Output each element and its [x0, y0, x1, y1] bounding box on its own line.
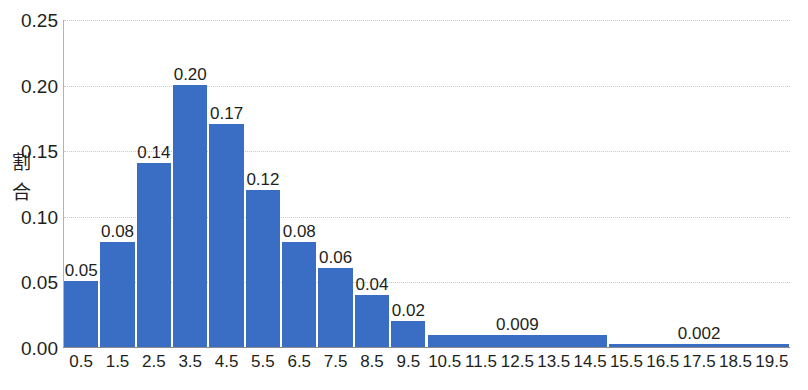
bar-value-label: 0.05: [63, 262, 99, 279]
x-tick-label: 2.5: [136, 352, 172, 371]
x-tick-label: 0.5: [63, 352, 99, 371]
bar-value-label: 0.04: [354, 276, 390, 293]
x-tick-label: 17.5: [681, 352, 717, 371]
bar: [246, 190, 280, 347]
bar: [137, 163, 171, 347]
x-tick-label: 1.5: [99, 352, 135, 371]
x-tick-label: 16.5: [645, 352, 681, 371]
bar-value-label: 0.20: [172, 66, 208, 83]
bar: [282, 242, 316, 347]
bar: [173, 85, 207, 347]
bar-value-label: 0.08: [99, 223, 135, 240]
bar: [209, 124, 243, 347]
x-tick-label: 5.5: [245, 352, 281, 371]
x-tick-label: 13.5: [536, 352, 572, 371]
bar-value-label: 0.02: [390, 302, 426, 319]
x-tick-label: 11.5: [463, 352, 499, 371]
x-tick-label: 14.5: [572, 352, 608, 371]
bar: [64, 281, 98, 347]
bar-value-label: 0.14: [136, 144, 172, 161]
bar-value-label: 0.06: [317, 249, 353, 266]
bar: [355, 295, 389, 347]
bar: [100, 242, 134, 347]
y-axis-tick-labels: 0.250.200.150.100.050.00: [10, 0, 58, 390]
bottom-caption-strip: [0, 379, 808, 390]
y-tick-label: 0.25: [14, 11, 58, 30]
x-tick-label: 7.5: [317, 352, 353, 371]
bar: [609, 344, 789, 347]
bar-value-label: 0.08: [281, 223, 317, 240]
x-tick-label: 3.5: [172, 352, 208, 371]
y-tick-label: 0.20: [14, 77, 58, 96]
bar: [428, 335, 608, 347]
bar: [391, 321, 425, 347]
x-tick-label: 10.5: [427, 352, 463, 371]
plot-area: 0.050.080.140.200.170.120.080.060.040.02…: [63, 20, 790, 348]
x-tick-label: 8.5: [354, 352, 390, 371]
bar-chart-figure: 割合 0.250.200.150.100.050.00 0.050.080.14…: [0, 0, 808, 390]
x-tick-label: 12.5: [499, 352, 535, 371]
bar-value-label: 0.009: [427, 316, 609, 333]
x-tick-label: 15.5: [608, 352, 644, 371]
bar: [318, 268, 352, 347]
y-tick-label: 0.15: [14, 142, 58, 161]
bar-value-label: 0.12: [245, 171, 281, 188]
x-tick-label: 9.5: [390, 352, 426, 371]
y-tick-label: 0.05: [14, 273, 58, 292]
x-tick-label: 18.5: [717, 352, 753, 371]
bar-value-label: 0.17: [208, 105, 244, 122]
bar-value-label: 0.002: [608, 325, 790, 342]
x-tick-label: 19.5: [754, 352, 790, 371]
x-axis-tick-labels: 0.51.52.53.54.55.56.57.58.59.510.511.512…: [63, 352, 790, 376]
y-tick-label: 0.10: [14, 208, 58, 227]
x-tick-label: 4.5: [208, 352, 244, 371]
y-tick-label: 0.00: [14, 339, 58, 358]
x-tick-label: 6.5: [281, 352, 317, 371]
